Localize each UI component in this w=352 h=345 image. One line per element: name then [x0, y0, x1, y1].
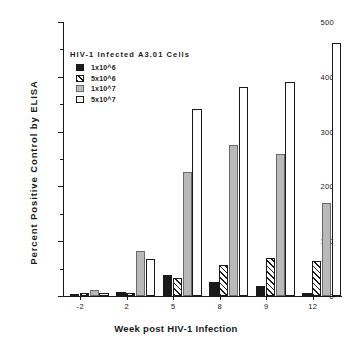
bar [192, 109, 201, 296]
bar [276, 154, 285, 296]
legend-title: HIV-1 Infected A3.01 Cells [70, 50, 190, 59]
bar [70, 294, 79, 296]
x-tick-label: 5 [171, 302, 176, 311]
x-tick [80, 296, 81, 300]
x-tick-label: 9 [264, 302, 269, 311]
bar [173, 278, 182, 296]
bar [229, 145, 238, 296]
bar [163, 275, 172, 296]
x-tick-label: 2 [124, 302, 129, 311]
x-tick [173, 296, 174, 300]
legend-item: 5x10^6 [70, 74, 190, 83]
y-tick-minor [60, 104, 63, 105]
y-tick-major [58, 22, 63, 23]
y-axis-title: Percent Positive Control by ELISA [22, 0, 44, 345]
bar [285, 82, 294, 296]
bar [302, 293, 311, 296]
y-tick-major [58, 132, 63, 133]
y-tick-major [58, 296, 63, 297]
x-tick [266, 296, 267, 300]
x-tick-label: -2 [77, 302, 84, 311]
legend: HIV-1 Infected A3.01 Cells 1x10^65x10^61… [70, 50, 190, 105]
y-tick-major [58, 241, 63, 242]
bar [266, 258, 275, 296]
bar [332, 43, 341, 296]
bar [219, 265, 228, 296]
legend-label: 1x10^6 [91, 64, 116, 71]
x-tick-label: 8 [217, 302, 222, 311]
bar [80, 293, 89, 296]
bar [209, 282, 218, 296]
y-axis-line [63, 22, 64, 296]
bar [146, 259, 155, 296]
legend-label: 5x10^6 [91, 75, 116, 82]
legend-swatch [76, 64, 84, 71]
x-axis-title: Week post HIV-1 Infection [0, 323, 352, 334]
legend-swatch [76, 85, 84, 92]
bar [239, 87, 248, 296]
chart-figure: Percent Positive Control by ELISA Week p… [0, 0, 352, 345]
bar [312, 261, 321, 296]
y-tick-minor [60, 269, 63, 270]
y-tick-minor [60, 214, 63, 215]
bar [126, 293, 135, 296]
legend-item: 1x10^7 [70, 84, 190, 93]
bar [99, 293, 108, 296]
x-tick [127, 296, 128, 300]
legend-swatch [76, 75, 84, 82]
bar [322, 203, 331, 296]
legend-label: 1x10^7 [91, 85, 116, 92]
legend-item: 1x10^6 [70, 63, 190, 72]
bar [90, 290, 99, 296]
y-tick-label: 500 [321, 18, 334, 27]
x-tick [220, 296, 221, 300]
bar [116, 292, 125, 296]
x-axis-line [63, 296, 342, 297]
y-tick-minor [60, 49, 63, 50]
legend-swatch [76, 96, 84, 103]
bar [183, 172, 192, 296]
legend-items: 1x10^65x10^61x10^75x10^7 [70, 63, 190, 104]
bar [136, 251, 145, 296]
x-tick [313, 296, 314, 300]
legend-item: 5x10^7 [70, 95, 190, 104]
y-tick-major [58, 77, 63, 78]
bar [256, 286, 265, 296]
legend-label: 5x10^7 [91, 96, 116, 103]
y-tick-minor [60, 159, 63, 160]
x-tick-label: 12 [308, 302, 317, 311]
y-tick-major [58, 186, 63, 187]
